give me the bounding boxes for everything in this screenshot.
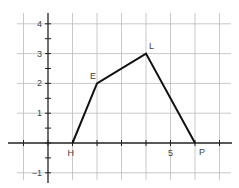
point-label-P: P bbox=[199, 147, 205, 157]
y-tick-label: 1 bbox=[37, 108, 42, 118]
coordinate-plane: 4321−15 HELP bbox=[0, 0, 239, 188]
polygon-HELP bbox=[73, 54, 196, 143]
y-tick-label: 2 bbox=[37, 78, 42, 88]
coordinate-plane-figure: 4321−15 HELP bbox=[0, 0, 239, 188]
y-tick-label: 4 bbox=[37, 19, 42, 29]
x-tick-label: 5 bbox=[168, 148, 173, 158]
y-tick-label: −1 bbox=[32, 168, 42, 178]
point-label-L: L bbox=[149, 41, 154, 51]
point-label-E: E bbox=[90, 71, 96, 81]
point-label-H: H bbox=[68, 148, 75, 158]
point-labels: HELP bbox=[68, 41, 206, 158]
y-tick-label: 3 bbox=[37, 49, 42, 59]
polygon-edges bbox=[73, 54, 196, 143]
axes bbox=[8, 13, 232, 183]
